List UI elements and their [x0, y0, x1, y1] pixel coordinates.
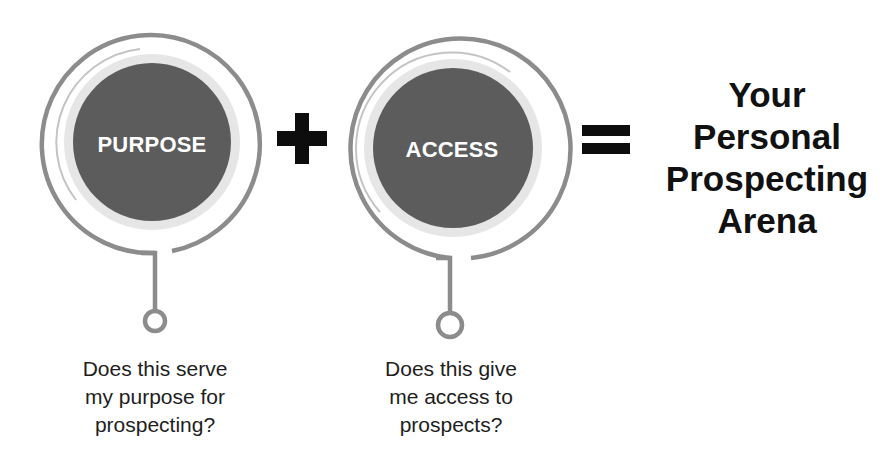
purpose-question: Does this serve my purpose for prospecti…	[35, 355, 275, 439]
plus-icon	[277, 113, 327, 164]
purpose-question-line-3: prospecting?	[35, 411, 275, 439]
purpose-node: PURPOSE	[42, 35, 260, 331]
access-stem	[436, 258, 450, 313]
result-text: Your Personal Prospecting Arena	[646, 74, 888, 242]
access-question-line-1: Does this give	[331, 355, 571, 383]
result-line-4: Arena	[646, 200, 888, 242]
access-question-line-2: me access to	[331, 383, 571, 411]
purpose-question-line-1: Does this serve	[35, 355, 275, 383]
access-node: ACCESS	[350, 39, 570, 337]
purpose-question-line-2: my purpose for	[35, 383, 275, 411]
result-line-1: Your	[646, 74, 888, 116]
access-label: ACCESS	[406, 137, 499, 162]
equals-icon	[582, 125, 630, 154]
access-question-line-3: prospects?	[331, 411, 571, 439]
result-line-3: Prospecting	[646, 158, 888, 200]
access-question: Does this give me access to prospects?	[331, 355, 571, 439]
result-line-2: Personal	[646, 116, 888, 158]
purpose-stem	[141, 253, 155, 312]
purpose-label: PURPOSE	[98, 132, 207, 157]
access-stem-end-circle	[438, 313, 462, 337]
purpose-stem-end-circle	[145, 311, 165, 331]
